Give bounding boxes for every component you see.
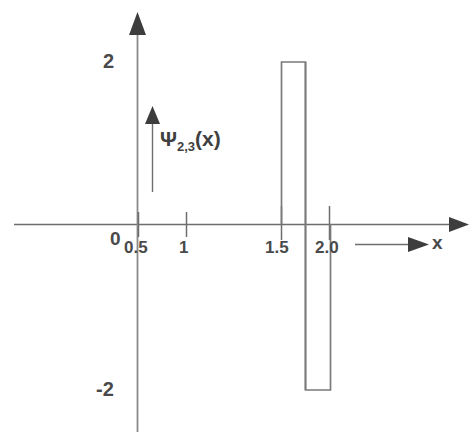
function-amplitude-arrowhead [145,106,160,124]
x-tick-label-0-5: 0.5 [124,238,148,258]
wavelet-figure: 2 -2 0 0.5 1 1.5 2.0 x Ψ2,3(x) [0,0,475,432]
pulse-positive [282,62,306,224]
function-subscript: 2,3 [177,139,195,154]
y-tick-label-minus2: -2 [96,378,114,401]
x-label-pointer-arrowhead [408,237,429,252]
function-symbol: Ψ [160,127,177,150]
function-label: Ψ2,3(x) [160,127,221,154]
x-tick-label-1-5: 1.5 [265,238,289,258]
x-axis-label: x [432,232,443,254]
x-axis-arrowhead [449,217,469,232]
y-axis-arrowhead [129,12,146,35]
x-tick-label-2-0: 2.0 [315,238,339,258]
y-tick-label-2: 2 [103,50,114,73]
x-tick-label-1: 1 [179,238,188,258]
function-argument: (x) [195,127,221,150]
origin-label: 0 [110,228,121,250]
plot-canvas [0,0,475,432]
